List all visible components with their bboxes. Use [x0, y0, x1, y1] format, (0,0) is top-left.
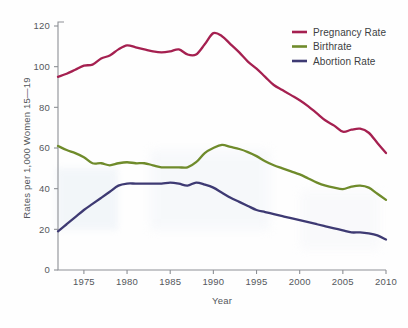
y-tick-label: 120	[34, 20, 50, 31]
x-tick-label: 1980	[116, 276, 138, 287]
x-axis-title: Year	[212, 295, 232, 306]
chart-legend: Pregnancy RateBirthrateAbortion Rate	[292, 27, 386, 67]
y-tick-label: 40	[39, 183, 50, 194]
x-tick-label: 1985	[159, 276, 181, 287]
x-tick-label: 2010	[375, 276, 397, 287]
y-tick-label: 0	[45, 264, 50, 275]
x-tick-label: 1975	[73, 276, 95, 287]
x-tick-label: 1995	[246, 276, 268, 287]
y-tick-label: 60	[39, 142, 50, 153]
series-line-abortion-rate	[58, 183, 386, 240]
y-tick-label: 100	[34, 61, 50, 72]
line-chart-plot: 020406080100120 197519801985199019952000…	[0, 0, 408, 328]
legend-label-birthrate: Birthrate	[313, 41, 352, 52]
legend-label-abortion-rate: Abortion Rate	[313, 56, 376, 67]
y-axis-title: Rates per 1,000 Women 15—19	[21, 77, 32, 218]
x-tick-label: 2000	[289, 276, 311, 287]
x-tick-label: 1990	[202, 276, 224, 287]
chart-figure: 020406080100120 197519801985199019952000…	[0, 0, 408, 328]
y-tick-label: 20	[39, 224, 50, 235]
y-tick-label: 80	[39, 102, 50, 113]
x-axis-ticks: 19751980198519901995200020052010	[73, 270, 397, 287]
x-tick-label: 2005	[332, 276, 354, 287]
legend-label-pregnancy-rate: Pregnancy Rate	[313, 27, 386, 38]
y-axis-ticks: 020406080100120	[34, 20, 58, 275]
